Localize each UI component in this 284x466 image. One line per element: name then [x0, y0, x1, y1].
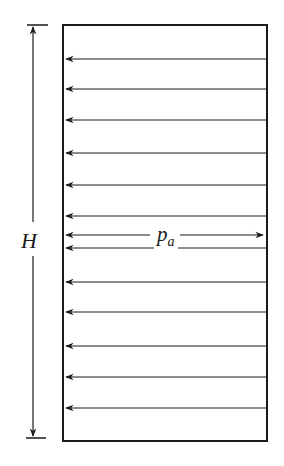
pressure-diagram [0, 0, 284, 466]
pressure-symbol: p [157, 222, 168, 246]
height-label: H [21, 226, 37, 256]
pressure-label: pa [154, 222, 178, 250]
pressure-subscript: a [168, 234, 175, 249]
